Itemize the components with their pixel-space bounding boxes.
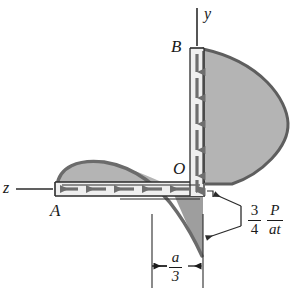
leader-to-spike (206, 226, 241, 238)
coefficient-numerator: 3 (249, 203, 261, 218)
coefficient-fraction: 3 4 (248, 203, 261, 237)
quantity-denominator: at (267, 222, 283, 237)
point-label-o: O (173, 160, 185, 177)
dimension-fraction: a 3 (169, 250, 182, 284)
dimension-label: a 3 (169, 250, 182, 284)
flange-negative-lobe-region (172, 190, 203, 254)
web-parabola-fill (203, 49, 288, 184)
right-angle-mark (207, 191, 213, 197)
coefficient-denominator: 4 (249, 222, 261, 237)
dimension-denominator: 3 (170, 269, 182, 284)
peak-value-annotation: 3 4 P at (248, 203, 283, 237)
quantity-numerator: P (268, 203, 281, 218)
web-shear-flow-region (203, 49, 288, 184)
axis-label-y: y (204, 6, 211, 22)
axis-label-z: z (3, 180, 9, 196)
figure-canvas (0, 0, 303, 295)
point-label-b: B (171, 38, 181, 55)
peak-value-leaders (206, 194, 241, 238)
dimension-numerator: a (170, 250, 182, 265)
negative-lobe-fill (172, 190, 203, 254)
shear-flow-figure: y z B O A 3 4 P at a 3 (0, 0, 303, 295)
leader-to-flange (214, 194, 241, 206)
point-label-a: A (50, 202, 60, 219)
quantity-fraction: P at (267, 203, 283, 237)
